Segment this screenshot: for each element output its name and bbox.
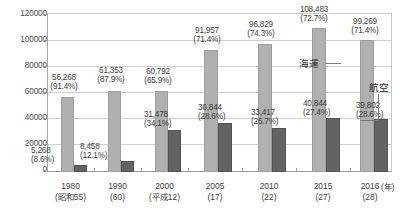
bar-group-2015 [296, 13, 350, 172]
leader-line-air [360, 120, 379, 121]
value-label-air-2000: 31,478 (34.1%) [144, 110, 188, 128]
value-label-sea-1980: 56,268 (91.4%) [40, 73, 88, 91]
bar-air-2010 [272, 128, 286, 172]
value-label-air-2010: 33,417 (25.7%) [251, 108, 295, 126]
x-category-2015: 2015 (27) [296, 181, 350, 203]
x-axis-unit-label: (年) [381, 182, 395, 193]
value-label-air-1980: 5,268 (8.6%) [31, 146, 75, 164]
leader-line-air-vertical [378, 94, 379, 120]
leader-line-sea [325, 63, 341, 64]
x-category-1980: 1980 (昭和55) [47, 181, 94, 203]
bar-air-2005 [218, 123, 232, 172]
value-label-sea-2000: 60,792 (65.9%) [134, 67, 182, 85]
bar-air-1990 [121, 161, 134, 172]
bar-air-1980 [74, 165, 87, 172]
bar-air-2000 [168, 130, 181, 172]
bar-group-2000 [141, 13, 188, 172]
y-tick-label-0: 0 [3, 166, 47, 174]
value-label-air-1990: 8,458 (12.1%) [80, 142, 124, 160]
series-callout-air: 航空 [369, 82, 389, 93]
y-tick-label-40000: 40000 [3, 114, 47, 122]
value-label-sea-2010: 96,829 (74.3%) [237, 20, 285, 38]
y-tick-label-80000: 80000 [3, 62, 47, 70]
y-axis: 120000 100000 80000 60000 40000 20000 0 [0, 0, 47, 209]
bar-sea-2000 [155, 91, 168, 172]
series-callout-sea: 海運 [299, 58, 319, 69]
x-axis: 1980 (昭和55) 1990 (60) 2000 (平成12) 2005 (… [47, 176, 392, 209]
value-label-sea-1990: 61,353 (87.9%) [87, 66, 135, 84]
value-label-air-2005: 36,844 (28.6%) [198, 103, 242, 121]
x-category-1990: 1990 (60) [94, 181, 141, 203]
value-label-sea-2015: 108,483 (72.7%) [288, 5, 340, 23]
value-label-sea-2016: 99,269 (71.4%) [340, 17, 390, 35]
value-label-air-2015: 40,844 (27.4%) [303, 99, 347, 117]
x-category-2005: 2005 (17) [188, 181, 242, 203]
value-label-sea-2005: 91,957 (71.4%) [183, 26, 231, 44]
y-tick-label-100000: 100000 [3, 36, 47, 44]
bar-air-2015 [326, 118, 340, 172]
x-category-2010: 2010 (22) [242, 181, 296, 203]
bar-air-2016 [374, 119, 388, 172]
bar-chart: 120000 100000 80000 60000 40000 20000 0 [0, 0, 406, 209]
y-tick-label-120000: 120000 [3, 10, 47, 18]
x-category-2000: 2000 (平成12) [141, 181, 188, 203]
